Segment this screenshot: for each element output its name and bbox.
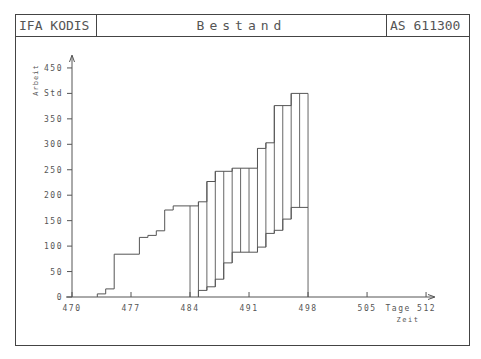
y-tick-label: 50	[50, 268, 63, 277]
y-tick-label: 100	[44, 242, 63, 251]
x-tick-label: 477	[122, 304, 141, 313]
y-tick-label: 150	[44, 217, 63, 226]
x-tick-label: Tage 512	[386, 304, 437, 313]
y-tick-label: 200	[44, 191, 63, 200]
inventory-chart: 050100150200250300350Std450Arbeit4704774…	[0, 0, 481, 359]
y-tick-label: 450	[44, 64, 63, 73]
x-tick-label: 498	[299, 304, 318, 313]
x-axis-label: Zeit	[397, 316, 420, 324]
y-tick-label: 250	[44, 166, 63, 175]
axes: 050100150200250300350Std450Arbeit4704774…	[32, 55, 436, 324]
y-tick-label: 350	[44, 115, 63, 124]
plot-area	[97, 93, 308, 297]
x-tick-label: 505	[358, 304, 377, 313]
y-tick-label: 0	[57, 293, 63, 302]
data-series-line	[97, 206, 198, 297]
x-tick-label: 484	[181, 304, 200, 313]
y-axis-label: Arbeit	[32, 64, 40, 95]
x-tick-label: 491	[240, 304, 259, 313]
y-tick-label: Std	[44, 89, 63, 98]
y-tick-label: 300	[44, 140, 63, 149]
x-tick-label: 470	[63, 304, 82, 313]
data-series-line	[198, 207, 308, 297]
